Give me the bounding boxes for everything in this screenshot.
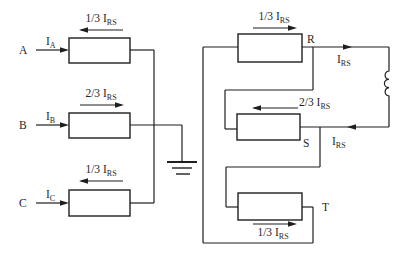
- phase-a-label: A: [19, 44, 28, 56]
- winding-t-share-arrowhead-icon: [288, 221, 297, 226]
- phase-b-label: B: [19, 119, 27, 131]
- inductor-icon: [384, 47, 389, 127]
- phase-c-label: C: [19, 197, 27, 209]
- loop-current-return-arrowhead-icon: [347, 124, 356, 129]
- winding-s-share-arrowhead-icon: [252, 105, 261, 110]
- winding-c-input-arrowhead-icon: [60, 200, 69, 205]
- winding-r-box: [238, 34, 302, 62]
- winding-b-input-arrowhead-icon: [60, 122, 69, 127]
- winding-a-input-arrowhead-icon: [60, 47, 69, 52]
- loop-current-top-arrowhead-icon: [343, 44, 352, 49]
- winding-a: A IA 1/3 IRS: [19, 12, 154, 63]
- winding-r: 1/3 IRS R IRS: [203, 10, 389, 90]
- winding-b: B IB 2/3 IRS: [19, 87, 182, 138]
- terminal-s-label: S: [303, 137, 309, 149]
- winding-t-share-label: 1/3 IRS: [257, 226, 288, 241]
- current-ic-label: IC: [46, 188, 55, 203]
- terminal-t-label: T: [322, 201, 329, 213]
- current-ib-label: IB: [46, 110, 55, 125]
- winding-t-box: [238, 193, 302, 220]
- winding-current-diagram: A IA 1/3 IRS B IB 2/3 IRS C IC: [0, 0, 413, 257]
- winding-b-share-label: 2/3 IRS: [85, 87, 116, 102]
- terminal-r-label: R: [307, 33, 315, 45]
- winding-c-share-arrowhead-icon: [79, 178, 88, 183]
- winding-t: 1/3 IRS T: [238, 193, 329, 243]
- loop-current-return-label: IRS: [332, 135, 346, 150]
- winding-s: 2/3 IRS S IRS: [237, 96, 389, 167]
- left-circuit: A IA 1/3 IRS B IB 2/3 IRS C IC: [19, 12, 197, 216]
- link-s-to-t: [226, 167, 320, 207]
- winding-s-share-label: 2/3 IRS: [299, 96, 330, 111]
- winding-b-box: [69, 113, 130, 138]
- winding-b-share-arrowhead-icon: [115, 102, 124, 107]
- current-ia-label: IA: [46, 35, 56, 50]
- winding-a-box: [69, 38, 130, 63]
- ground-icon: [167, 162, 197, 174]
- right-circuit: 1/3 IRS R IRS 2/3 IRS S IRS: [203, 10, 389, 243]
- winding-a-share-arrowhead-icon: [79, 27, 88, 32]
- winding-c-share-label: 1/3 IRS: [85, 163, 116, 178]
- winding-c-box: [69, 190, 130, 216]
- circuit-diagram-page: A IA 1/3 IRS B IB 2/3 IRS C IC: [0, 0, 413, 257]
- winding-r-share-label: 1/3 IRS: [258, 10, 289, 25]
- winding-a-share-label: 1/3 IRS: [85, 12, 116, 27]
- winding-c: C IC 1/3 IRS: [19, 163, 154, 216]
- winding-r-share-arrowhead-icon: [288, 25, 297, 30]
- winding-s-box: [237, 114, 300, 140]
- loop-current-top-label: IRS: [337, 53, 351, 68]
